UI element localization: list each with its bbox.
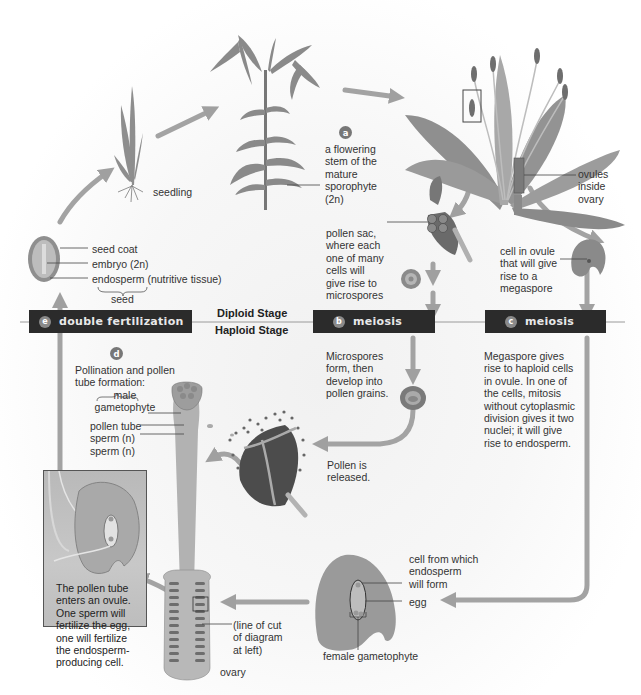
arrow-pollen-released: [320, 410, 413, 444]
step-badge-c: c: [505, 316, 517, 328]
pollen-grain-illustration: [400, 386, 426, 410]
line-of-cut-label: (line of cut of diagram at left): [233, 619, 283, 656]
pollen-released-label: Pollen is released.: [327, 459, 370, 484]
endosperm-cell-label: cell from which endosperm will form: [409, 553, 478, 590]
cell-in-ovule-label: cell in ovule that will give rise to a m…: [500, 245, 557, 295]
lily-plant-illustration: [210, 35, 320, 210]
haploid-stage-label: Haploid Stage: [215, 324, 288, 336]
pollen-sac-label: pollen sac, where each one of many cells…: [326, 227, 384, 301]
seed-parts-label: seed coat embryo (2n) endosperm (nutriti…: [92, 242, 222, 287]
female-gametophyte-illustration: [315, 555, 402, 651]
banner-meiosis-c: c meiosis: [485, 310, 606, 333]
ovules-inside-ovary-label: ovules inside ovary: [578, 168, 608, 205]
male-gametophyte-parts-label: pollen tube sperm (n) sperm (n): [90, 420, 141, 457]
seedling-illustration: [114, 86, 143, 202]
banner-label: double fertilization: [59, 315, 184, 328]
female-gametophyte-label: female gametophyte: [323, 650, 418, 662]
diploid-stage-label: Diploid Stage: [217, 307, 287, 319]
megaspore-label: Megaspore gives rise to haploid cells in…: [484, 350, 575, 449]
microspore-cell-illustration: [401, 269, 421, 289]
step-badge-b: b: [333, 316, 345, 328]
banner-label: meiosis: [525, 315, 574, 328]
step-badge-d: d: [110, 347, 123, 360]
banner-double-fertilization: e double fertilization: [29, 310, 192, 333]
ovule-cross-section-icon: [44, 471, 146, 581]
step-badge-a: a: [339, 126, 352, 139]
step-badge-e: e: [39, 316, 51, 328]
arrow-pollen-to-stigma: [212, 454, 240, 463]
arrow-plant-to-flower: [345, 90, 397, 97]
egg-label: egg: [409, 596, 427, 608]
ovule-megaspore-illustration: [560, 239, 605, 276]
microspores-label: Microspores form, then develop into poll…: [326, 350, 388, 400]
pollination-label: Pollination and pollen tube formation: m…: [75, 364, 175, 414]
flowering-stem-label: a flowering stem of the mature sporophyt…: [325, 143, 377, 205]
banner-meiosis-b: b meiosis: [313, 310, 435, 333]
seedling-label: seedling: [153, 186, 192, 198]
inset-description: The pollen tube enters an ovule. One spe…: [56, 582, 131, 669]
ovary-label: ovary: [220, 666, 246, 678]
ovary-section: [514, 158, 524, 193]
arrow-seedling-to-plant: [158, 110, 212, 136]
dehiscing-anther-illustration: [207, 410, 306, 515]
seed-label: seed: [111, 293, 134, 305]
arrow-seed-to-seedling: [60, 172, 108, 222]
banner-label: meiosis: [353, 315, 402, 328]
